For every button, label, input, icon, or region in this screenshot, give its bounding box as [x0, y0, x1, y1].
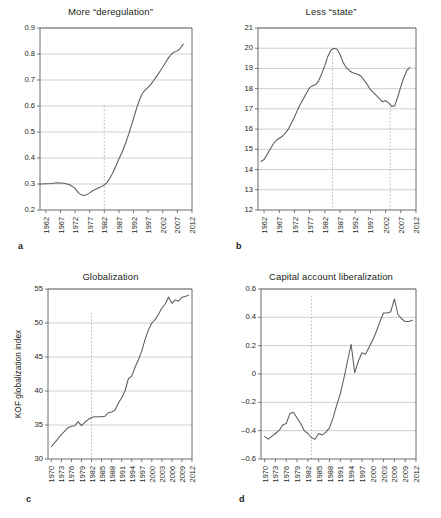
svg-text:2009: 2009 — [401, 466, 410, 482]
chart-svg-b: 1213141516171819202119621967197219771982… — [221, 0, 441, 265]
svg-text:13: 13 — [245, 185, 253, 194]
svg-text:2006: 2006 — [390, 466, 399, 482]
series-line-b — [261, 48, 410, 161]
svg-text:1970: 1970 — [47, 466, 56, 482]
svg-text:1972: 1972 — [291, 217, 300, 233]
svg-text:1997: 1997 — [358, 466, 367, 482]
chart-panel-c: Globalizationc30354045505519701973197619… — [0, 265, 221, 518]
svg-text:0.2: 0.2 — [245, 341, 256, 350]
svg-text:1997: 1997 — [366, 217, 375, 233]
svg-text:KOF globalization index: KOF globalization index — [13, 329, 23, 418]
svg-text:0.2: 0.2 — [24, 205, 35, 214]
svg-text:0.6: 0.6 — [245, 284, 256, 293]
svg-text:2006: 2006 — [168, 466, 177, 482]
svg-text:1987: 1987 — [115, 217, 124, 233]
svg-text:0.4: 0.4 — [24, 153, 35, 162]
svg-text:2009: 2009 — [178, 466, 187, 482]
svg-text:1985: 1985 — [315, 466, 324, 482]
svg-text:2003: 2003 — [158, 466, 167, 482]
svg-text:17: 17 — [245, 104, 253, 113]
svg-text:45: 45 — [35, 352, 43, 361]
svg-text:2007: 2007 — [397, 217, 406, 233]
svg-text:1997: 1997 — [138, 466, 147, 482]
svg-text:1977: 1977 — [86, 217, 95, 233]
panel-title-a: More “deregulation” — [0, 6, 221, 17]
chart-svg-d: –0.6–0.4–0.200.20.40.6197019731976197919… — [221, 265, 441, 518]
svg-text:1982: 1982 — [304, 466, 313, 482]
chart-svg-a: 0.20.30.40.50.60.70.80.91962196719721977… — [0, 0, 221, 265]
svg-text:0: 0 — [252, 369, 256, 378]
svg-text:0.6: 0.6 — [24, 101, 35, 110]
svg-text:0.3: 0.3 — [24, 179, 35, 188]
chart-panel-d: Capital account liberalizationd–0.6–0.4–… — [221, 265, 441, 518]
svg-text:1979: 1979 — [293, 466, 302, 482]
svg-text:1979: 1979 — [78, 466, 87, 482]
svg-text:1992: 1992 — [351, 217, 360, 233]
svg-text:1988: 1988 — [108, 466, 117, 482]
svg-text:1982: 1982 — [88, 466, 97, 482]
chart-panel-a: More “deregulation”a0.20.30.40.50.60.70.… — [0, 0, 221, 265]
svg-text:14: 14 — [245, 165, 253, 174]
svg-text:21: 21 — [245, 23, 253, 32]
svg-text:2012: 2012 — [412, 217, 421, 233]
svg-text:1982: 1982 — [100, 217, 109, 233]
svg-text:1987: 1987 — [336, 217, 345, 233]
svg-text:2003: 2003 — [380, 466, 389, 482]
svg-text:35: 35 — [35, 420, 43, 429]
series-line-a — [40, 44, 183, 195]
svg-text:2002: 2002 — [159, 217, 168, 233]
svg-text:1991: 1991 — [118, 466, 127, 482]
panel-letter-b: b — [236, 241, 242, 251]
svg-text:20: 20 — [245, 43, 253, 52]
svg-text:1992: 1992 — [130, 217, 139, 233]
svg-text:1991: 1991 — [336, 466, 345, 482]
svg-text:2000: 2000 — [148, 466, 157, 482]
panel-title-b: Less “state” — [221, 6, 441, 17]
panel-letter-c: c — [26, 494, 31, 504]
svg-text:15: 15 — [245, 144, 253, 153]
svg-text:1973: 1973 — [271, 466, 280, 482]
svg-text:2012: 2012 — [188, 466, 197, 482]
svg-text:1997: 1997 — [144, 217, 153, 233]
svg-text:30: 30 — [35, 454, 43, 463]
svg-text:2012: 2012 — [188, 217, 197, 233]
svg-text:2000: 2000 — [369, 466, 378, 482]
svg-text:19: 19 — [245, 63, 253, 72]
svg-text:1972: 1972 — [71, 217, 80, 233]
svg-text:1976: 1976 — [67, 466, 76, 482]
svg-text:1967: 1967 — [57, 217, 66, 233]
panel-letter-d: d — [239, 494, 245, 504]
svg-text:1962: 1962 — [260, 217, 269, 233]
svg-text:1982: 1982 — [321, 217, 330, 233]
svg-text:2002: 2002 — [382, 217, 391, 233]
svg-text:18: 18 — [245, 84, 253, 93]
svg-text:–0.6: –0.6 — [241, 454, 256, 463]
svg-text:0.5: 0.5 — [24, 127, 35, 136]
svg-text:2007: 2007 — [173, 217, 182, 233]
figure-container: More “deregulation”a0.20.30.40.50.60.70.… — [0, 0, 441, 518]
svg-text:1985: 1985 — [98, 466, 107, 482]
chart-svg-c: 3035404550551970197319761979198219851988… — [0, 265, 221, 518]
svg-text:12: 12 — [245, 205, 253, 214]
svg-text:16: 16 — [245, 124, 253, 133]
svg-text:1994: 1994 — [128, 466, 137, 482]
svg-text:1973: 1973 — [57, 466, 66, 482]
svg-text:–0.2: –0.2 — [241, 397, 256, 406]
svg-text:0.7: 0.7 — [24, 75, 35, 84]
svg-text:–0.4: –0.4 — [241, 426, 256, 435]
panel-title-c: Globalization — [0, 271, 221, 282]
svg-text:1976: 1976 — [282, 466, 291, 482]
svg-text:0.8: 0.8 — [24, 49, 35, 58]
svg-text:40: 40 — [35, 386, 43, 395]
svg-text:50: 50 — [35, 318, 43, 327]
series-line-c — [51, 295, 188, 447]
svg-text:0.4: 0.4 — [245, 312, 256, 321]
svg-text:1988: 1988 — [326, 466, 335, 482]
svg-text:1962: 1962 — [42, 217, 51, 233]
svg-text:1967: 1967 — [275, 217, 284, 233]
svg-text:1977: 1977 — [306, 217, 315, 233]
svg-text:1970: 1970 — [261, 466, 270, 482]
panel-title-d: Capital account liberalization — [221, 271, 441, 282]
panel-letter-a: a — [18, 241, 23, 251]
svg-text:1994: 1994 — [347, 466, 356, 482]
